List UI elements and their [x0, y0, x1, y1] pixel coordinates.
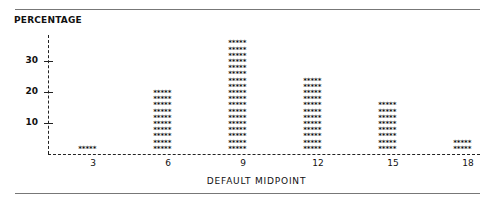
y-tick-label: 20 [8, 86, 38, 96]
bar-row: ***** [153, 115, 183, 121]
bar-row: ***** [228, 90, 258, 96]
bar-row: ***** [228, 53, 258, 59]
bar-row: ***** [228, 78, 258, 84]
bar-row: ***** [303, 115, 333, 121]
bar-row: ***** [153, 109, 183, 115]
top-rule [15, 9, 480, 10]
bar-row: ***** [303, 78, 333, 84]
bar-row: ***** [303, 90, 333, 96]
bar-row: ***** [303, 140, 333, 146]
bar-row: ***** [303, 146, 333, 152]
x-tick-label: 15 [378, 158, 408, 168]
bar-row: ***** [228, 71, 258, 77]
bar-row: ***** [153, 102, 183, 108]
bar-row: ***** [378, 109, 408, 115]
y-tick-label: 10 [8, 117, 38, 127]
x-axis-label: DEFAULT MIDPOINT [0, 176, 493, 186]
y-axis [48, 35, 49, 154]
bar-row: ***** [378, 146, 408, 152]
bar-row: ***** [228, 127, 258, 133]
bar-row: ***** [453, 140, 483, 146]
bar-row: ***** [228, 84, 258, 90]
bar-row: ***** [303, 96, 333, 102]
bar-row: ***** [228, 65, 258, 71]
y-tick-mark [44, 61, 53, 62]
bar-row: ***** [303, 121, 333, 127]
bar-row: ***** [303, 133, 333, 139]
bar-row: ***** [228, 59, 258, 65]
bar-row: ***** [153, 121, 183, 127]
bar-row: ***** [153, 96, 183, 102]
x-tick-label: 12 [303, 158, 333, 168]
bar-row: ***** [378, 133, 408, 139]
bar-row: ***** [303, 127, 333, 133]
x-tick-label: 18 [453, 158, 483, 168]
bar-row: ***** [153, 140, 183, 146]
bar-row: ***** [228, 109, 258, 115]
bar-row: ***** [378, 102, 408, 108]
y-tick-mark [44, 123, 53, 124]
x-tick-label: 9 [228, 158, 258, 168]
bar-row: ***** [228, 140, 258, 146]
bar-row: ***** [228, 102, 258, 108]
bar-row: ***** [228, 96, 258, 102]
bar-row: ***** [378, 127, 408, 133]
bar-row: ***** [378, 121, 408, 127]
y-tick-label: 30 [8, 55, 38, 65]
bar-row: ***** [378, 115, 408, 121]
bar-row: ***** [303, 84, 333, 90]
bar-row: ***** [153, 133, 183, 139]
bar-row: ***** [153, 90, 183, 96]
bar-row: ***** [303, 102, 333, 108]
x-axis [48, 154, 480, 155]
bar-row: ***** [228, 133, 258, 139]
y-axis-label: PERCENTAGE [14, 15, 82, 25]
bar-row: ***** [228, 115, 258, 121]
bar-row: ***** [228, 146, 258, 152]
bar-row: ***** [303, 109, 333, 115]
bar-row: ***** [228, 40, 258, 46]
bar-row: ***** [153, 146, 183, 152]
y-tick-mark [44, 92, 53, 93]
bar-row: ***** [378, 140, 408, 146]
x-tick-label: 6 [153, 158, 183, 168]
bottom-rule [15, 193, 480, 194]
bar-row: ***** [228, 121, 258, 127]
bar-row: ***** [453, 146, 483, 152]
x-tick-label: 3 [78, 158, 108, 168]
bar-row: ***** [153, 127, 183, 133]
bar-row: ***** [78, 146, 108, 152]
bar-row: ***** [228, 47, 258, 53]
